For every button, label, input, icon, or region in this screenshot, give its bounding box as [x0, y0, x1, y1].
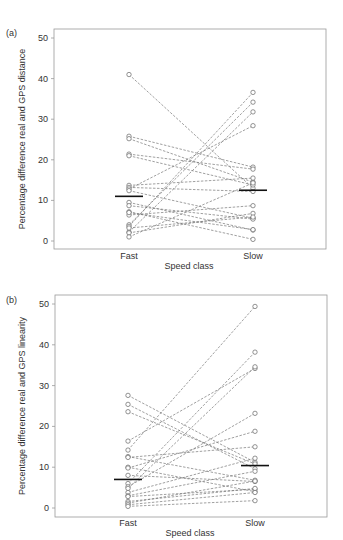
y-tick-label: 40 — [39, 340, 49, 350]
y-axis-label: Percentage difference real and GPS dista… — [17, 49, 27, 229]
pair-line — [128, 413, 255, 486]
data-point — [251, 227, 255, 231]
pair-lines — [129, 75, 253, 240]
pair-line — [129, 213, 253, 230]
data-point — [253, 469, 257, 473]
y-tick-label: 0 — [44, 503, 49, 513]
pair-line — [128, 431, 255, 468]
y-tick-label: 20 — [38, 155, 48, 165]
data-point — [126, 455, 130, 459]
data-point — [127, 72, 131, 76]
data-point — [251, 100, 255, 104]
y-tick-label: 10 — [39, 462, 49, 472]
data-point — [253, 304, 257, 308]
data-point — [127, 210, 131, 214]
x-tick-slow: Slow — [245, 518, 265, 528]
pair-line — [129, 206, 253, 219]
data-points — [126, 304, 257, 508]
data-point — [126, 504, 130, 508]
data-point — [126, 393, 130, 397]
pair-line — [128, 488, 255, 501]
data-point — [253, 456, 257, 460]
data-point — [253, 490, 257, 494]
data-point — [126, 439, 130, 443]
pair-line — [129, 183, 253, 237]
data-point — [127, 136, 131, 140]
data-point — [127, 188, 131, 192]
data-point — [251, 110, 255, 114]
pair-line — [129, 217, 253, 228]
pair-line — [129, 213, 253, 232]
x-tick-fast: Fast — [119, 518, 137, 528]
y-tick-label: 20 — [39, 421, 49, 431]
y-tick-label: 30 — [38, 114, 48, 124]
pair-line — [128, 368, 255, 441]
pair-line — [129, 92, 253, 226]
data-point — [251, 167, 255, 171]
data-point — [253, 365, 257, 369]
figure: (a) 01020304050 Fast Slow Speed class Pe… — [0, 0, 343, 540]
x-tick-fast: Fast — [120, 251, 138, 261]
data-point — [127, 226, 131, 230]
pair-line — [129, 102, 253, 225]
pair-line — [128, 306, 255, 450]
y-tick-label: 50 — [39, 299, 49, 309]
pair-line — [129, 112, 253, 232]
pair-line — [128, 475, 255, 481]
y-axis: 01020304050 — [39, 299, 55, 513]
y-axis: 01020304050 — [38, 33, 54, 246]
x-axis-label: Speed class — [165, 528, 215, 538]
data-point — [251, 203, 255, 207]
pair-lines — [128, 306, 255, 506]
data-point — [251, 237, 255, 241]
panel-label: (a) — [6, 28, 17, 38]
data-point — [251, 90, 255, 94]
data-point — [126, 402, 130, 406]
pair-line — [128, 481, 255, 503]
pair-line — [128, 352, 255, 483]
data-point — [126, 494, 130, 498]
y-tick-label: 40 — [38, 74, 48, 84]
pair-line — [129, 212, 253, 240]
pair-line — [129, 139, 253, 182]
chart-panel-b: (b) 01020304050 Fast Slow Speed class Pe… — [6, 295, 327, 538]
data-point — [253, 411, 257, 415]
pair-line — [128, 412, 255, 464]
data-point — [251, 123, 255, 127]
panel-label: (b) — [6, 295, 17, 305]
pair-line — [128, 457, 255, 481]
y-tick-label: 0 — [43, 236, 48, 246]
x-axis-label: Speed class — [164, 261, 214, 271]
data-point — [251, 181, 255, 185]
data-point — [253, 429, 257, 433]
pair-line — [129, 126, 253, 189]
pair-line — [128, 458, 255, 492]
data-point — [126, 448, 130, 452]
data-point — [253, 350, 257, 354]
pair-line — [128, 492, 255, 504]
y-tick-label: 50 — [38, 33, 48, 43]
pair-line — [129, 154, 253, 169]
data-point — [127, 235, 131, 239]
median-bars — [115, 190, 267, 196]
pair-line — [129, 75, 253, 189]
median-bars — [114, 466, 269, 480]
pair-line — [128, 501, 255, 507]
pair-line — [128, 367, 255, 489]
data-point — [251, 215, 255, 219]
data-point — [126, 466, 130, 470]
data-point — [253, 498, 257, 502]
data-point — [126, 473, 130, 477]
y-tick-label: 30 — [39, 381, 49, 391]
y-axis-label: Percentage difference real and GPS linea… — [17, 317, 27, 495]
pair-line — [129, 187, 253, 191]
y-tick-label: 10 — [38, 195, 48, 205]
data-point — [253, 445, 257, 449]
data-point — [253, 479, 257, 483]
data-point — [251, 176, 255, 180]
pair-line — [128, 467, 255, 491]
data-point — [127, 154, 131, 158]
data-point — [126, 410, 130, 414]
chart-panel-a: (a) 01020304050 Fast Slow Speed class Pe… — [6, 28, 326, 271]
data-point — [127, 203, 131, 207]
